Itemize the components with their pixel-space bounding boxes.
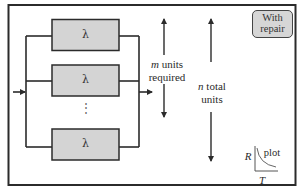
m-units-text: units — [159, 58, 183, 70]
badge-line-1: With — [253, 12, 292, 23]
ellipsis: ⋮ — [76, 104, 96, 112]
plot-x-axis-label: T — [256, 174, 268, 187]
plot-y-axis-label: R — [243, 150, 253, 163]
with-repair-badge: With repair — [252, 10, 293, 38]
badge-line-2: repair — [253, 23, 292, 34]
m-required-text: required — [142, 71, 192, 84]
n-units-text: units — [187, 93, 237, 106]
block-1-label: λ — [52, 28, 119, 41]
block-3-label: λ — [52, 137, 119, 150]
n-total-units-label: n total units — [187, 80, 237, 106]
block-2-label: λ — [52, 73, 119, 86]
m-units-required-label: m units required — [142, 58, 192, 84]
plot-label: plot — [261, 146, 283, 159]
n-total-text: total — [204, 80, 226, 92]
m-var: m — [151, 58, 159, 70]
